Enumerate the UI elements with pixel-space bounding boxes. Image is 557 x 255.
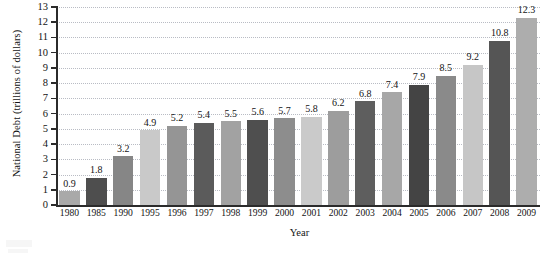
bar-value-label: 10.8 <box>484 28 514 38</box>
bar <box>382 92 402 205</box>
bar-value-label: 7.9 <box>404 72 434 82</box>
y-axis-title: National Debt (trillions of dollars) <box>11 4 22 204</box>
y-axis-tick-label: 10 <box>28 48 48 59</box>
bar-value-label: 5.5 <box>216 109 246 119</box>
bar <box>86 178 106 205</box>
scan-artifact <box>6 240 32 247</box>
bar-value-label: 0.9 <box>54 179 84 189</box>
bar-value-label: 5.4 <box>189 110 219 120</box>
bar-value-label: 5.2 <box>162 113 192 123</box>
bar-value-label: 12.3 <box>511 5 541 15</box>
scan-artifact <box>8 249 28 253</box>
bar-value-label: 3.2 <box>108 144 138 154</box>
bar <box>167 126 187 205</box>
x-axis-tick-labels: 1980198519901995199619971998199920002001… <box>56 208 540 222</box>
bar-value-label: 5.7 <box>269 106 299 116</box>
plot-area: 0.91.83.24.95.25.45.55.65.75.86.26.87.47… <box>56 7 540 205</box>
bar-chart-figure: National Debt (trillions of dollars) 012… <box>0 0 557 255</box>
bar <box>409 85 429 205</box>
y-axis-tick-label: 13 <box>28 2 48 13</box>
x-axis-title: Year <box>0 227 557 238</box>
y-axis-tick-labels: 012345678910111213 <box>28 7 48 205</box>
bar-value-label: 5.6 <box>242 107 272 117</box>
bar <box>355 101 375 205</box>
gridline <box>56 7 540 9</box>
gridline <box>56 22 540 24</box>
y-axis-tick-label: 0 <box>28 200 48 211</box>
bar <box>463 65 483 205</box>
y-axis-tick-label: 3 <box>28 154 48 165</box>
x-axis-tick-label: 2009 <box>511 208 542 218</box>
bar <box>436 76 456 205</box>
y-axis-tick-label: 8 <box>28 78 48 89</box>
bar <box>516 18 536 205</box>
y-axis-tick-label: 6 <box>28 109 48 120</box>
bar <box>194 123 214 205</box>
y-axis-tick-label: 4 <box>28 139 48 150</box>
bar <box>113 156 133 205</box>
bar-value-label: 5.8 <box>296 104 326 114</box>
bar-value-label: 6.2 <box>323 98 353 108</box>
x-axis-title-text: Year <box>290 227 309 238</box>
bar-value-label: 1.8 <box>81 165 111 175</box>
y-axis-tick-label: 11 <box>28 32 48 43</box>
bar <box>274 118 294 205</box>
y-axis-tick-label: 12 <box>28 17 48 28</box>
bar-value-label: 4.9 <box>135 118 165 128</box>
bar-value-label: 8.5 <box>431 63 461 73</box>
bar <box>140 130 160 205</box>
y-axis-tick-label: 7 <box>28 93 48 104</box>
y-axis-tick-label: 5 <box>28 124 48 135</box>
bar <box>59 191 79 205</box>
bar <box>247 120 267 205</box>
y-axis-line <box>56 6 58 206</box>
y-axis-tick-label: 2 <box>28 170 48 181</box>
bar <box>489 41 509 205</box>
bar-value-label: 7.4 <box>377 80 407 90</box>
bar <box>328 111 348 205</box>
gridline <box>56 37 540 39</box>
y-axis-tick-label: 9 <box>28 63 48 74</box>
bar-value-label: 9.2 <box>458 52 488 62</box>
y-axis-tick-label: 1 <box>28 185 48 196</box>
bar-value-label: 6.8 <box>350 89 380 99</box>
bar <box>301 117 321 205</box>
bar <box>221 121 241 205</box>
